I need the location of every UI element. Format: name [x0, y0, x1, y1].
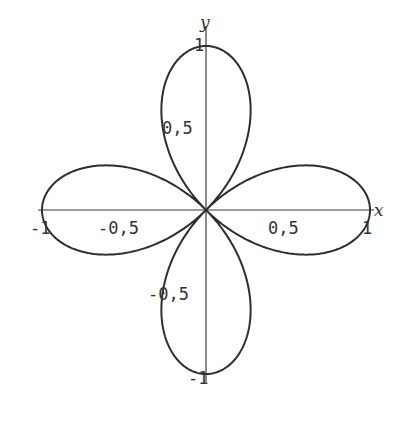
x-axis-label: x — [374, 200, 384, 220]
y-axis-label: y — [199, 12, 210, 32]
y-tick-minus-0.5: -0,5 — [148, 284, 189, 304]
y-tick-minus-1: -1 — [188, 368, 208, 388]
x-tick-minus-1: -1 — [30, 218, 50, 238]
x-tick-minus-0.5: -0,5 — [98, 218, 139, 238]
y-tick-1: 1 — [194, 35, 204, 55]
y-tick-0.5: 0,5 — [162, 118, 193, 138]
x-tick-0.5: 0,5 — [268, 218, 299, 238]
x-tick-1: 1 — [362, 218, 372, 238]
polar-rose-plot: x y -1 -0,5 0,5 1 1 0,5 -0,5 -1 — [0, 0, 401, 428]
